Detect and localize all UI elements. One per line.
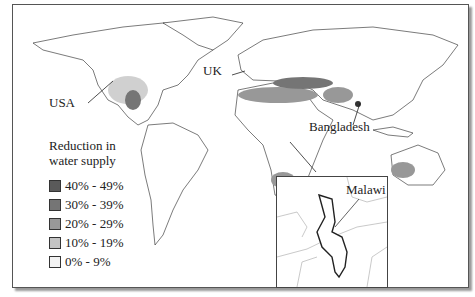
- indonesia: [373, 127, 413, 137]
- legend-title-line1: Reduction in: [49, 138, 116, 153]
- label-bangladesh: Bangladesh: [309, 119, 370, 135]
- legend-swatch: [49, 218, 61, 230]
- legend-swatch: [49, 237, 61, 249]
- malawi-border: [317, 195, 347, 277]
- legend-item: 0% - 9%: [49, 255, 111, 269]
- legend-label: 10% - 19%: [65, 235, 124, 251]
- legend-swatch: [49, 256, 61, 268]
- label-uk: UK: [203, 63, 222, 79]
- legend-item: 20% - 29%: [49, 217, 124, 231]
- legend-label: 30% - 39%: [65, 197, 124, 213]
- uk-pointer: [232, 71, 245, 75]
- legend-item: 10% - 19%: [49, 236, 124, 250]
- legend-item: 30% - 39%: [49, 198, 124, 212]
- south-america: [141, 123, 208, 245]
- label-usa: USA: [49, 95, 75, 111]
- legend-title: Reduction in water supply: [49, 138, 116, 168]
- legend-swatch: [49, 199, 61, 211]
- legend-item: 40% - 49%: [49, 179, 124, 193]
- malawi-inset: Malawi: [276, 176, 388, 288]
- legend-title-line2: water supply: [49, 153, 116, 168]
- legend-label: 0% - 9%: [65, 254, 111, 270]
- label-malawi: Malawi: [346, 182, 386, 198]
- legend-swatch: [49, 180, 61, 192]
- legend-label: 20% - 29%: [65, 216, 124, 232]
- malawi-inset-pointer: [335, 199, 359, 227]
- map-frame: USA UK Bangladesh Reduction in water sup…: [12, 4, 469, 288]
- legend-label: 40% - 49%: [65, 178, 124, 194]
